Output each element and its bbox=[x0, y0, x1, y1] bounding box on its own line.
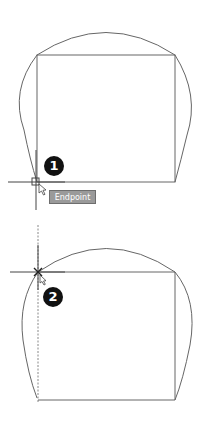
cursor-arrow-icon-2 bbox=[40, 275, 46, 285]
top-figure bbox=[8, 33, 191, 211]
step-badge-1: 1 bbox=[44, 156, 64, 176]
bottom-figure bbox=[10, 225, 192, 402]
top-right-curve bbox=[175, 55, 191, 182]
bottom-right-curve bbox=[175, 272, 192, 400]
top-left-curve bbox=[19, 55, 37, 182]
top-arc bbox=[37, 33, 175, 56]
step-badge-2: 2 bbox=[43, 287, 63, 307]
bottom-left-curve bbox=[22, 272, 38, 398]
cad-drawing-canvas bbox=[0, 0, 205, 437]
endpoint-tooltip: Endpoint bbox=[49, 190, 96, 204]
bottom-arc bbox=[38, 249, 175, 273]
cursor-arrow-icon-1 bbox=[39, 184, 46, 195]
